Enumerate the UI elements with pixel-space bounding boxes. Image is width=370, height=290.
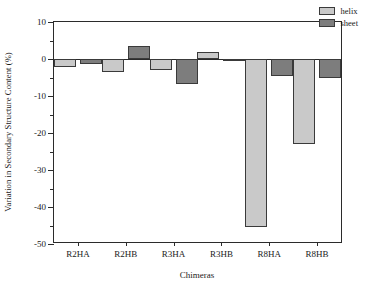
bars bbox=[102, 22, 150, 242]
bar-group-r2ha: R2HA bbox=[54, 22, 102, 242]
y-axis-tick-label: -40 bbox=[34, 203, 46, 212]
bar-group-r3ha: R3HA bbox=[150, 22, 198, 242]
legend: helixsheet bbox=[319, 6, 358, 30]
x-axis-tick bbox=[126, 242, 127, 246]
bar-r2hb-helix bbox=[102, 59, 124, 72]
y-axis-tick bbox=[48, 244, 54, 245]
y-axis-tick-label: -20 bbox=[34, 129, 46, 138]
y-axis-tick-label: -10 bbox=[34, 92, 46, 101]
legend-swatch-helix bbox=[319, 7, 335, 15]
bar-r3hb-sheet bbox=[223, 59, 245, 61]
bar-r8hb-helix bbox=[293, 59, 315, 144]
x-axis-tick-label: R3HB bbox=[210, 249, 233, 259]
x-axis-title: Chimeras bbox=[180, 270, 215, 280]
legend-label: helix bbox=[341, 6, 358, 16]
bars bbox=[197, 22, 245, 242]
y-axis-tick-label: 0 bbox=[42, 55, 47, 64]
legend-item-sheet: sheet bbox=[319, 18, 358, 28]
legend-item-helix: helix bbox=[319, 6, 358, 16]
x-axis-tick bbox=[174, 242, 175, 246]
x-axis-tick bbox=[269, 242, 270, 246]
bar-r2hb-sheet bbox=[128, 46, 150, 59]
bar-group-r8ha: R8HA bbox=[245, 22, 293, 242]
bar-group-r2hb: R2HB bbox=[102, 22, 150, 242]
bar-group-r8hb: R8HB bbox=[293, 22, 341, 242]
x-axis-tick-label: R2HB bbox=[114, 249, 137, 259]
x-axis-tick bbox=[221, 242, 222, 246]
plot-area: 100-10-20-30-40-50 R2HAR2HBR3HAR3HBR8HAR… bbox=[53, 21, 342, 243]
bar-r3ha-helix bbox=[150, 59, 172, 70]
bar-r8hb-sheet bbox=[319, 59, 341, 78]
figure: Variation in Secondary Structure Content… bbox=[0, 0, 370, 290]
bars bbox=[54, 22, 102, 242]
bars bbox=[293, 22, 341, 242]
bars bbox=[245, 22, 293, 242]
x-axis-tick-label: R8HA bbox=[257, 249, 281, 259]
bar-r8ha-helix bbox=[245, 59, 267, 227]
bar-groups: R2HAR2HBR3HAR3HBR8HAR8HB bbox=[54, 22, 341, 242]
y-axis-tick-label: -50 bbox=[34, 240, 46, 249]
x-axis-tick-label: R3HA bbox=[162, 249, 186, 259]
bar-r3ha-sheet bbox=[176, 59, 198, 84]
y-axis-tick-label: 10 bbox=[37, 18, 46, 27]
bar-r3hb-helix bbox=[197, 52, 219, 59]
bar-r2ha-helix bbox=[54, 59, 76, 67]
legend-swatch-sheet bbox=[319, 19, 335, 27]
legend-label: sheet bbox=[341, 18, 358, 28]
x-axis-tick bbox=[317, 242, 318, 246]
y-axis-title: Variation in Secondary Structure Content… bbox=[3, 52, 13, 211]
x-axis-tick-label: R2HA bbox=[66, 249, 90, 259]
bar-group-r3hb: R3HB bbox=[197, 22, 245, 242]
x-axis-tick bbox=[78, 242, 79, 246]
bar-r2ha-sheet bbox=[80, 59, 102, 64]
bars bbox=[150, 22, 198, 242]
y-axis-tick-label: -30 bbox=[34, 166, 46, 175]
x-axis-tick-label: R8HB bbox=[306, 249, 329, 259]
bar-r8ha-sheet bbox=[271, 59, 293, 76]
